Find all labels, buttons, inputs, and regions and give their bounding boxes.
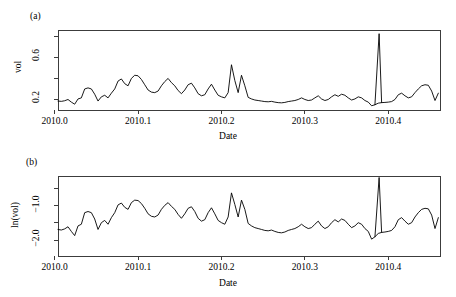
figure-two-panel-timeseries: (a) vol Date 2010.02010.12010.22010.3201… [0,0,456,297]
panel-b-xtick-label: 2010.2 [191,262,251,272]
panel-b-plot [0,148,456,297]
panel-b-xtick-label: 2010.0 [25,262,85,272]
panel-a: (a) vol Date 2010.02010.12010.22010.3201… [0,0,456,150]
panel-b-xtick-label: 2010.3 [275,262,335,272]
panel-a-xtick-label: 2010.3 [275,116,335,126]
panel-a-ytick-label: 0.6 [31,37,41,73]
panel-b: (b) ln(vol) Date 2010.02010.12010.22010.… [0,148,456,297]
panel-b-ytick-label: −2.0 [31,220,41,256]
panel-a-plot [0,0,456,150]
panel-a-ytick-label: 0.2 [31,79,41,115]
panel-a-xtick-label: 2010.2 [191,116,251,126]
panel-a-xtick-label: 2010.4 [358,116,418,126]
panel-b-xtick-label: 2010.4 [358,262,418,272]
panel-b-ytick-label: −1.0 [31,186,41,222]
panel-a-xtick-label: 2010.0 [25,116,85,126]
panel-b-xtick-label: 2010.1 [108,262,168,272]
panel-a-xtick-label: 2010.1 [108,116,168,126]
